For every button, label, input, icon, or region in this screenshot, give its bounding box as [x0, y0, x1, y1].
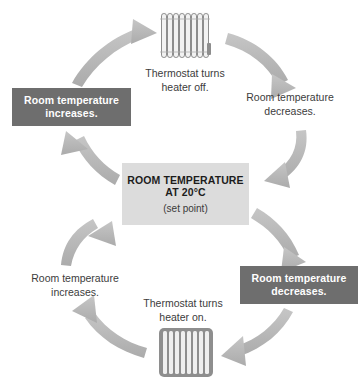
node-room-temp-decreases-box: Room temperature decreases. — [240, 266, 358, 304]
arrow-center-to-decrease — [251, 208, 306, 272]
thermostat-feedback-diagram: ROOM TEMPERATURE AT 20°C (set point) Roo… — [0, 0, 363, 383]
caption-line2: heater on. — [159, 311, 206, 323]
node-line1: Room temperature — [24, 94, 119, 106]
caption-heater-off: Thermostat turns heater off. — [128, 67, 242, 94]
center-setpoint-box: ROOM TEMPERATURE AT 20°C (set point) — [122, 163, 249, 225]
node-line1: Room temperature — [31, 272, 119, 284]
caption-line1: Thermostat turns — [145, 67, 224, 79]
node-room-temp-increases-label: Room temperature increases. — [12, 272, 138, 299]
node-line2: increases. — [45, 107, 97, 119]
node-line2: decreases. — [264, 105, 315, 117]
caption-line2: heater off. — [161, 81, 208, 93]
node-text: Room temperature increases. — [24, 94, 119, 120]
center-box-line2: AT 20°C — [165, 186, 205, 198]
arrow-cooling-to-center — [264, 130, 307, 188]
arrow-center-to-increase — [61, 131, 120, 185]
radiator-off-icon — [158, 9, 214, 63]
node-room-temp-increases-box: Room temperature increases. — [12, 88, 131, 126]
center-box-subtitle: (set point) — [163, 203, 207, 215]
node-line1: Room temperature — [246, 91, 334, 103]
radiator-on-icon — [157, 326, 215, 379]
center-box-title: ROOM TEMPERATURE AT 20°C — [127, 174, 243, 199]
node-line1: Room temperature — [252, 272, 347, 284]
center-box-line1: ROOM TEMPERATURE — [127, 174, 243, 186]
node-line2: decreases. — [271, 285, 326, 297]
arrow-warming-to-center — [61, 219, 116, 266]
node-room-temp-decreases-label: Room temperature decreases. — [227, 91, 353, 118]
node-line2: increases. — [51, 286, 99, 298]
node-text: Room temperature decreases. — [252, 272, 347, 298]
caption-line1: Thermostat turns — [143, 297, 222, 309]
caption-heater-on: Thermostat turns heater on. — [126, 297, 240, 324]
